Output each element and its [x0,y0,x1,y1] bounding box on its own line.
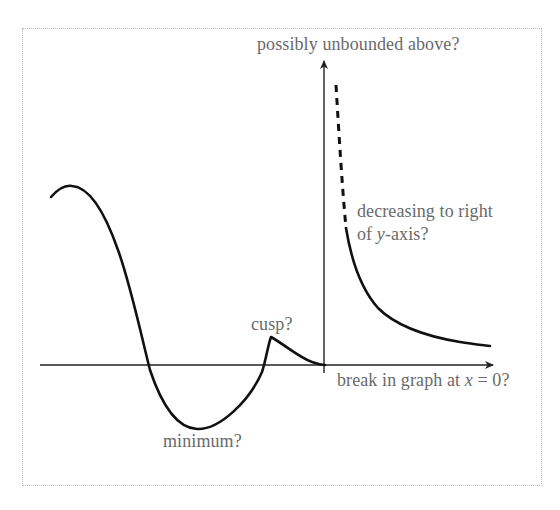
label-decreasing-line1: decreasing to right [357,201,493,221]
label-break-prefix: break in graph at [337,370,465,390]
label-minimum: minimum? [163,431,242,451]
label-decreasing-suffix: -axis? [385,224,429,244]
label-break-in-graph: break in graph at x = 0? [337,370,509,390]
label-decreasing-line2: of y-axis? [357,224,428,244]
right-curve-solid [346,228,490,346]
function-plot [0,0,560,510]
label-decreasing-prefix: of [357,224,377,244]
left-curve [51,186,325,429]
label-cusp: cusp? [251,314,292,334]
label-decreasing-var: y [377,224,385,244]
label-break-var: x [465,370,473,390]
label-break-suffix: = 0? [473,370,510,390]
right-curve-dashed [336,85,346,228]
label-unbounded-above: possibly unbounded above? [257,34,459,54]
